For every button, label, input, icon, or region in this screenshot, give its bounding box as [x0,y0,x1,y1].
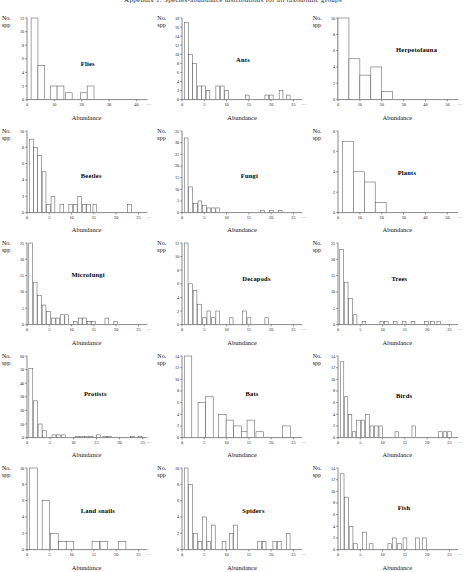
y-tick-label: 2 [333,423,335,428]
y-axis-label-line1: No. [157,353,166,360]
x-tick-label: 15 [247,439,251,444]
histogram-bar [198,402,206,437]
x-tick-label: 15 [92,327,96,332]
y-tick-label: 6 [177,400,180,405]
histogram-bar [47,312,51,325]
histogram-bar [287,534,291,550]
y-tick-label: 20 [331,257,335,262]
x-tick-label: 20 [379,102,383,107]
histogram-bar [349,59,360,100]
y-tick-label: 8 [333,32,335,37]
x-tick-label: 20 [114,552,118,557]
histogram-bar [364,182,375,213]
x-tick-label: 50 [445,214,449,219]
histogram-bar [30,468,38,550]
x-tick-label: 10 [380,552,384,557]
x-tick-label: 20 [114,327,118,332]
x-tick-label: 15 [92,214,96,219]
histogram-bar [370,426,374,438]
histogram-bar [207,542,211,550]
x-tick-label: 0 [337,327,339,332]
histogram-bar [52,435,56,438]
histogram-bar [93,204,97,212]
histogram-bar [270,210,274,212]
x-axis-label-text: Abundance [365,339,413,346]
chart-panel-plants: 0246801020304050…No.sppAbundancePlants [311,122,466,235]
plot-area: 024681012140510152025…No.sppAbundanceFis… [311,459,466,572]
y-axis-label-line2: spp [2,472,11,479]
histogram-svg: 024681012140510152025… [155,347,310,460]
y-tick-label: 8 [177,482,179,487]
x-axis-label-text: Abundance [365,451,413,458]
y-tick-label: 60 [20,353,24,358]
histogram-bar [38,295,42,324]
histogram-bar [380,322,384,325]
x-tick-label: 0 [181,102,183,107]
x-axis-label: Abundance [155,114,310,121]
x-tick-label: 15 [402,439,406,444]
histogram-bar [206,397,214,438]
x-tick-label: 0 [181,552,183,557]
histogram-bar [234,526,238,550]
y-tick-label: 12 [331,365,335,370]
y-tick-label: 0 [333,97,335,102]
histogram-bar [60,315,64,325]
histogram-bar [247,318,251,325]
x-axis-label: Abundance [0,339,155,346]
x-tick-label: 10 [357,102,361,107]
axis-continuation-glyph: … [147,101,152,106]
histogram-bar [212,208,216,213]
chart-panel-fish: 024681012140510152025…No.sppAbundanceFis… [311,459,466,572]
histogram-bar [189,284,193,325]
y-tick-label: 10 [175,52,179,57]
y-tick-label: 0 [333,547,335,552]
y-tick-label: 2 [333,189,335,194]
y-tick-label: 2 [22,193,24,198]
histogram-bar [422,538,426,550]
y-tick-label: 2 [22,531,24,536]
y-axis-label: No.spp [313,353,322,367]
plot-area: 05101520250510152025…No.sppAbundanceTree… [311,234,466,347]
x-tick-label: 5 [359,327,361,332]
y-tick-label: 8 [177,268,179,273]
y-axis-label: No.spp [2,240,11,254]
y-tick-label: 25 [175,151,179,156]
x-tick-label: 10 [69,214,73,219]
histogram-bar [189,485,193,550]
x-tick-label: 25 [292,552,296,557]
histogram-bar [198,542,202,550]
x-tick-label: 25 [292,439,296,444]
y-axis-label-line1: No. [313,353,322,360]
x-tick-label: 20 [269,552,273,557]
y-tick-label: 0 [177,97,179,102]
axis-continuation-glyph: … [457,439,462,444]
y-axis-label: No.spp [157,465,166,479]
y-tick-label: 14 [331,466,336,471]
histogram-bar [83,318,87,325]
y-axis-label-line2: spp [157,360,166,367]
x-tick-label: 10 [225,102,229,107]
axis-continuation-glyph: … [457,214,462,219]
x-tick-label: 25 [292,327,296,332]
y-tick-label: 8 [22,43,24,48]
histogram-bar [33,282,37,324]
histogram-bar [57,435,61,438]
x-tick-label: 0 [26,214,28,219]
histogram-svg: 0246810120510152025… [155,234,310,347]
figure-title: Appendix 1. Species-abundance distributi… [0,0,466,4]
y-tick-label: 0 [177,435,179,440]
y-tick-label: 4 [177,79,180,84]
y-axis-label-line2: spp [313,472,322,479]
y-tick-label: 15 [175,175,179,180]
axis-continuation-glyph: … [147,439,152,444]
x-tick-label: 0 [26,327,28,332]
histogram-bar [73,322,77,325]
x-tick-label: 0 [181,327,183,332]
panel-title: Fungi [241,172,258,179]
x-tick-label: 10 [225,552,229,557]
histogram-bar [430,322,434,325]
histogram-bar [339,250,343,325]
x-axis-label-text: Abundance [209,114,257,121]
y-axis-label-line2: spp [313,22,322,29]
histogram-bar [185,138,189,213]
